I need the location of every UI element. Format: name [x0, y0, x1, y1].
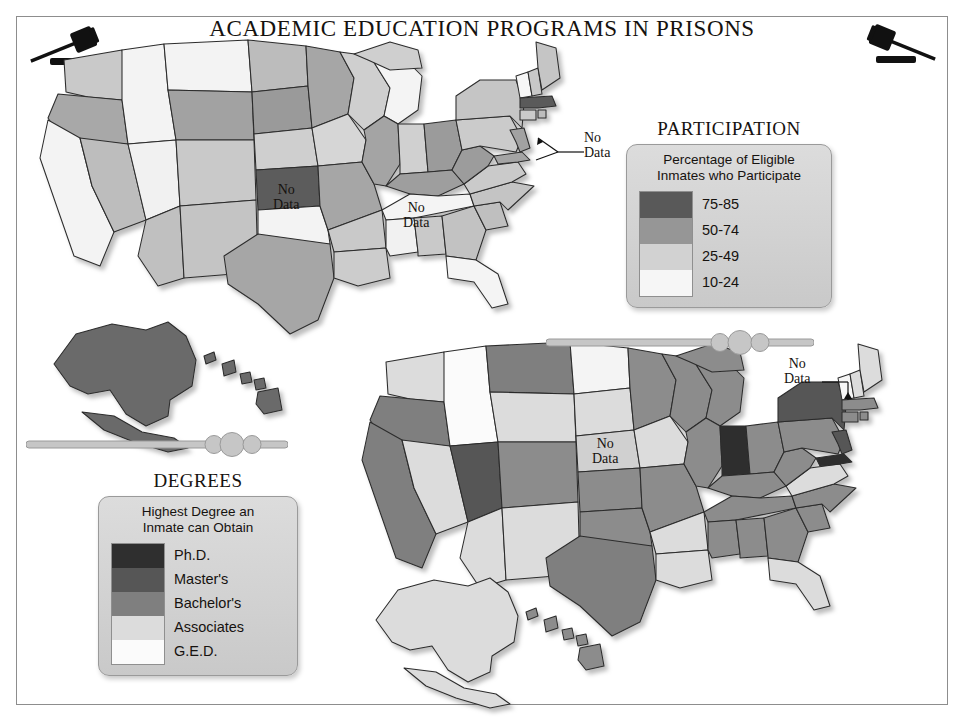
state-WY [168, 90, 254, 140]
swatch-phd [112, 544, 164, 568]
poster-root: ACADEMIC EDUCATION PROGRAMS IN PRISONS [0, 0, 964, 719]
participation-label-stack: 75-85 50-74 25-49 10-24 [702, 191, 739, 297]
state-SD [252, 86, 312, 134]
state-CO [498, 442, 578, 508]
state-AL [414, 216, 446, 256]
state-HI-1 [526, 608, 538, 620]
state-HI-2 [544, 616, 558, 632]
state-HI-4 [576, 634, 588, 646]
state-HI-5 [256, 388, 282, 414]
state-CO [176, 140, 256, 206]
degrees-label-3: Associates [174, 615, 244, 639]
participation-swatch-stack [639, 191, 693, 297]
state-FL [768, 558, 830, 610]
degrees-label-stack: Ph.D. Master's Bachelor's Associates G.E… [174, 543, 244, 665]
participation-legend-heading: PARTICIPATION [626, 118, 832, 140]
degrees-legend: DEGREES Highest Degree an Inmate can Obt… [98, 470, 298, 676]
state-KY [708, 472, 786, 498]
state-TX [224, 234, 334, 334]
divider-bar [546, 330, 814, 356]
state-RI [860, 412, 868, 420]
degrees-map: No Data No Data [352, 336, 952, 714]
state-HI-4 [254, 378, 266, 390]
degrees-swatch-column: Ph.D. Master's Bachelor's Associates G.E… [111, 543, 285, 665]
state-MT [164, 40, 252, 92]
participation-label-0: 75-85 [702, 191, 739, 217]
swatch-associates [112, 616, 164, 640]
state-MS [708, 520, 740, 558]
state-CT [842, 412, 858, 422]
state-KS [256, 166, 320, 210]
degrees-swatch-stack [111, 543, 165, 665]
state-WA [64, 50, 130, 100]
state-FL [446, 256, 508, 308]
swatch-10-24 [640, 270, 692, 296]
swatch-bachelors [112, 592, 164, 616]
state-WY [490, 392, 576, 442]
state-IN [398, 124, 428, 174]
state-WA [386, 352, 452, 402]
state-LA [656, 550, 712, 588]
nodata-leader-lines-top [536, 138, 584, 160]
participation-legend-subtitle: Percentage of Eligible Inmates who Parti… [639, 152, 819, 184]
state-ND [248, 40, 308, 92]
participation-label-1: 50-74 [702, 217, 739, 243]
state-AK [376, 578, 518, 682]
degrees-label-4: G.E.D. [174, 639, 244, 663]
state-AK [54, 322, 196, 426]
swatch-masters [112, 568, 164, 592]
state-KY [386, 170, 464, 196]
participation-legend-box: Percentage of Eligible Inmates who Parti… [626, 144, 832, 308]
state-CT [520, 110, 536, 120]
gavel-icon [852, 16, 942, 72]
swatch-50-74 [640, 218, 692, 244]
state-HI-3 [562, 628, 574, 640]
state-RI [538, 110, 546, 118]
degrees-legend-box: Highest Degree an Inmate can Obtain Ph.D… [98, 496, 298, 676]
participation-label-2: 25-49 [702, 243, 739, 269]
swatch-75-85 [640, 192, 692, 218]
state-SD [574, 388, 634, 436]
state-HI-2 [222, 360, 236, 376]
state-HI-5 [578, 644, 604, 670]
degrees-label-0: Ph.D. [174, 543, 244, 567]
degrees-label-2: Bachelor's [174, 591, 244, 615]
state-MS [386, 218, 418, 256]
divider-bar [26, 432, 288, 458]
state-MD [494, 152, 530, 164]
degrees-label-1: Master's [174, 567, 244, 591]
state-KS [578, 468, 642, 512]
state-LA [334, 248, 390, 286]
participation-legend: PARTICIPATION Percentage of Eligible Inm… [626, 118, 832, 308]
state-MA [520, 96, 556, 108]
state-IN [720, 426, 750, 476]
degrees-legend-subtitle: Highest Degree an Inmate can Obtain [111, 504, 285, 536]
state-HI-1 [204, 352, 216, 364]
participation-label-3: 10-24 [702, 269, 739, 295]
state-TX [546, 536, 656, 636]
swatch-ged [112, 640, 164, 664]
degrees-legend-heading: DEGREES [98, 470, 298, 492]
state-NE [576, 430, 640, 472]
state-MD [816, 454, 852, 466]
state-AL [736, 518, 768, 558]
swatch-25-49 [640, 244, 692, 270]
state-HI-3 [240, 372, 252, 384]
participation-swatch-column: 75-85 50-74 25-49 10-24 [639, 191, 819, 297]
state-NE [254, 128, 318, 170]
